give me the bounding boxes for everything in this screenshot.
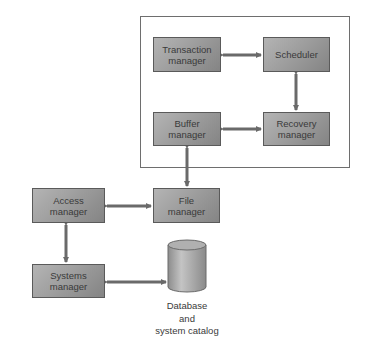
node-label: manager [168,129,206,140]
database-label-line: and [140,313,234,326]
node-label: Scheduler [275,49,318,60]
node-label: Buffer [174,118,199,129]
database-label-line: system catalog [140,325,234,338]
node-label: manager [168,55,206,66]
access-manager-node: Access manager [32,188,105,223]
transaction-manager-node: Transaction manager [153,37,221,72]
node-label: manager [50,281,88,292]
scheduler-node: Scheduler [263,37,330,72]
recovery-manager-node: Recovery manager [263,112,330,146]
node-label: Transaction [162,44,211,55]
node-label: manager [50,206,88,217]
database-label-line: Database [140,300,234,313]
database-cylinder-icon [168,240,206,292]
systems-manager-node: Systems manager [32,264,105,298]
file-manager-node: File manager [153,188,220,223]
node-label: Systems [50,270,86,281]
node-label: manager [278,129,316,140]
node-label: Access [53,195,84,206]
node-label: File [179,195,194,206]
node-label: manager [168,206,206,217]
buffer-manager-node: Buffer manager [153,112,221,146]
database-label: Database and system catalog [140,300,234,338]
node-label: Recovery [276,118,316,129]
